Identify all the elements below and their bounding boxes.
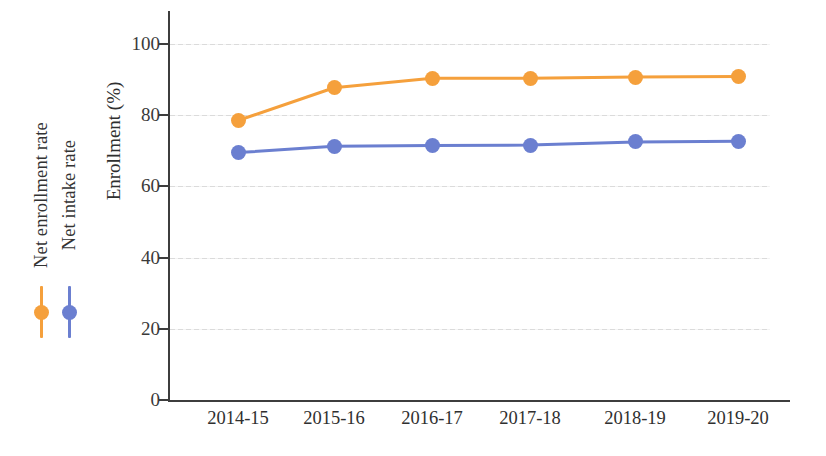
chart-plot-area: Enrollment (%) 020406080100 2014-152015-… <box>0 0 826 456</box>
chart-figure: Net enrollment rate Net intake rate Enro… <box>0 0 826 456</box>
series-line-1 <box>238 141 738 152</box>
series-line-0 <box>238 76 738 120</box>
series-lines <box>0 0 826 456</box>
